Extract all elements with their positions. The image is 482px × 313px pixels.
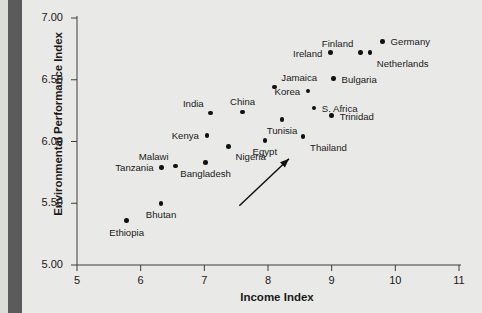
- data-point-label: Germany: [391, 36, 430, 47]
- data-point-label: Bhutan: [146, 209, 176, 220]
- data-point-label: Korea: [275, 85, 301, 96]
- data-point: [124, 218, 129, 223]
- x-tick-label: 8: [253, 274, 283, 286]
- book-gutter-shadow: [8, 0, 22, 313]
- data-point-label: Thailand: [310, 141, 347, 152]
- data-point-label: Finland: [322, 37, 353, 48]
- data-point-label: Bulgaria: [342, 73, 377, 84]
- x-tick-label: 10: [380, 274, 410, 286]
- y-axis-title: Environmental Performance Index: [52, 24, 64, 224]
- data-point-label: Tunisia: [267, 125, 298, 136]
- data-point-label: India: [183, 98, 204, 109]
- data-point: [205, 133, 210, 138]
- data-point-label: Ireland: [293, 47, 322, 58]
- data-point: [329, 113, 334, 118]
- data-point-label: Malawi: [139, 151, 169, 162]
- y-tick-label: 7.00: [23, 11, 63, 23]
- data-point-label: Tanzania: [115, 162, 153, 173]
- chart-figure: Environmental Performance Index Income I…: [0, 0, 482, 313]
- data-point: [240, 110, 245, 115]
- data-point: [368, 50, 373, 55]
- data-point-label: Jamaica: [281, 72, 317, 83]
- data-point: [280, 117, 285, 122]
- data-point-label: Netherlands: [377, 57, 429, 68]
- data-point: [328, 50, 333, 55]
- data-point-label: Kenya: [172, 130, 199, 141]
- data-point-label: China: [230, 95, 255, 106]
- plot-surface: Environmental Performance Index Income I…: [22, 0, 482, 313]
- data-point-label: Ethiopia: [109, 226, 144, 237]
- x-tick-label: 9: [317, 274, 347, 286]
- data-point: [331, 76, 336, 81]
- y-tick-label: 6.50: [23, 73, 63, 85]
- data-point: [263, 138, 268, 143]
- annotation-layer: [239, 159, 289, 206]
- data-point-label: Trinidad: [340, 110, 374, 121]
- x-tick-label: 11: [444, 274, 474, 286]
- x-axis-title: Income Index: [77, 291, 477, 303]
- y-tick-label: 5.50: [23, 196, 63, 208]
- y-tick-label: 6.00: [23, 135, 63, 147]
- x-tick-label: 6: [126, 274, 156, 286]
- x-tick-label: 7: [189, 274, 219, 286]
- x-tick-label: 5: [62, 274, 92, 286]
- data-point: [358, 50, 363, 55]
- data-point: [226, 144, 231, 149]
- data-point: [301, 134, 306, 139]
- page-edge-strip: [0, 0, 8, 313]
- y-tick-label: 5.00: [23, 258, 63, 270]
- data-point: [159, 165, 164, 170]
- data-point: [380, 39, 385, 44]
- data-point: [159, 201, 164, 206]
- data-point-label: Bangladesh: [180, 168, 231, 179]
- data-point-label: Egypt: [253, 146, 278, 157]
- data-point: [203, 160, 208, 165]
